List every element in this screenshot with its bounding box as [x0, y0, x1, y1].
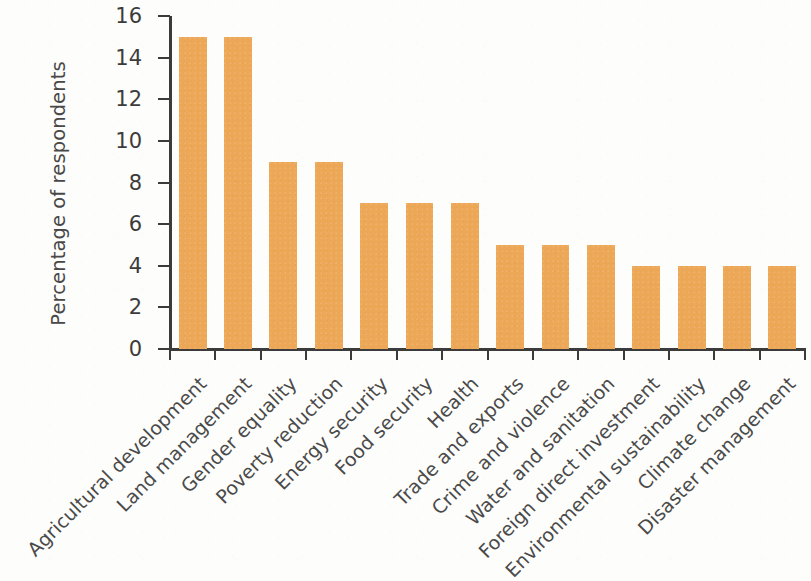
- x-axis-tick: [577, 349, 579, 360]
- bar: [269, 162, 297, 349]
- bar: [723, 266, 751, 349]
- x-axis-tick: [668, 349, 670, 360]
- bar: [632, 266, 660, 349]
- x-axis-tick: [759, 349, 761, 360]
- bar: [542, 245, 570, 349]
- x-axis-tick: [350, 349, 352, 360]
- x-axis-tick: [396, 349, 398, 360]
- bar: [179, 37, 207, 349]
- bar: [451, 203, 479, 349]
- x-axis-tick: [532, 349, 534, 360]
- x-axis-tick: [260, 349, 262, 360]
- x-axis-tick: [305, 349, 307, 360]
- x-axis-tick: [804, 349, 806, 360]
- x-axis-tick: [441, 349, 443, 360]
- x-axis-tick: [214, 349, 216, 360]
- x-axis-tick: [169, 349, 171, 360]
- bar: [406, 203, 434, 349]
- bar: [678, 266, 706, 349]
- bar: [768, 266, 796, 349]
- bar: [496, 245, 524, 349]
- bar: [224, 37, 252, 349]
- bar: [587, 245, 615, 349]
- bars-layer: [0, 0, 811, 349]
- x-axis-label: Agricultural development: [22, 372, 210, 560]
- bar: [315, 162, 343, 349]
- x-axis-tick: [623, 349, 625, 360]
- bar: [360, 203, 388, 349]
- x-axis-tick: [713, 349, 715, 360]
- x-axis-tick: [487, 349, 489, 360]
